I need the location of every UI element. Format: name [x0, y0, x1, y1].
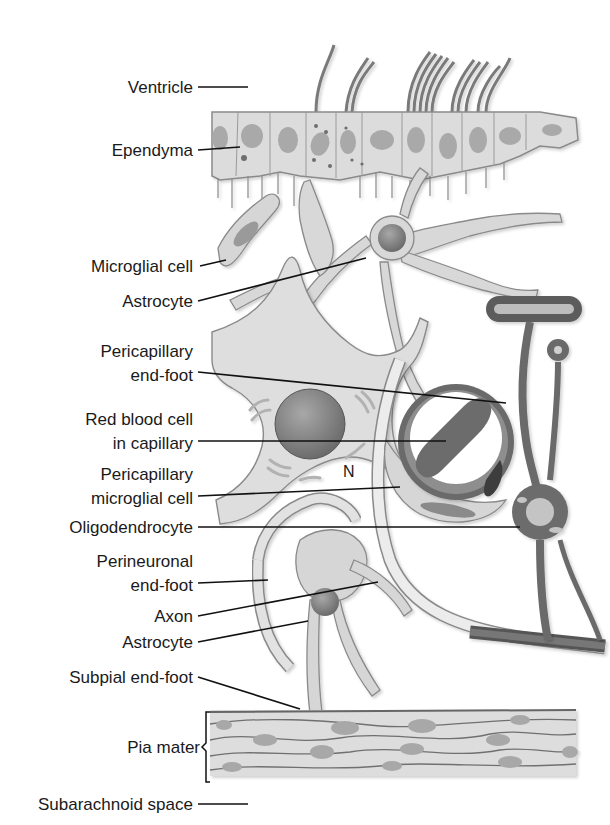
label-astrocyte-upper: Astrocyte [122, 292, 193, 311]
label-red-blood-cell: Red blood cell in capillary [85, 408, 193, 456]
label-perineuronal-end-foot: Perineuronal end-foot [97, 550, 193, 598]
label-text: Axon [154, 607, 193, 626]
nucleus-marker: N [343, 463, 355, 481]
label-text: Pericapillary [100, 340, 193, 364]
label-text: Astrocyte [122, 633, 193, 652]
label-text: Subpial end-foot [69, 668, 193, 687]
label-text: end-foot [97, 574, 193, 598]
label-text: Ependyma [112, 141, 193, 160]
pia-mater-shape [210, 710, 578, 776]
label-text: Ventricle [128, 78, 193, 97]
label-subpial-end-foot: Subpial end-foot [69, 668, 193, 687]
label-oligodendrocyte: Oligodendrocyte [69, 518, 193, 537]
label-text: end-foot [100, 364, 193, 388]
label-ependyma: Ependyma [112, 141, 193, 160]
label-text: Oligodendrocyte [69, 518, 193, 537]
label-text: Red blood cell [85, 408, 193, 432]
neuroglia-diagram: Ventricle Ependyma Microglial cell Astro… [0, 0, 610, 825]
cilia [316, 45, 510, 112]
label-text: Pia mater [127, 738, 200, 757]
label-ventricle: Ventricle [128, 78, 193, 97]
label-text: Astrocyte [122, 292, 193, 311]
label-subarachnoid-space: Subarachnoid space [38, 795, 193, 814]
label-text: Perineuronal [97, 550, 193, 574]
pia-mater-bracket [202, 712, 210, 782]
label-text: in capillary [85, 432, 193, 456]
label-astrocyte-lower: Astrocyte [122, 633, 193, 652]
label-pericapillary-microglial-cell: Pericapillary microglial cell [91, 463, 193, 511]
label-pericapillary-end-foot: Pericapillary end-foot [100, 340, 193, 388]
label-text: Subarachnoid space [38, 795, 193, 814]
label-text: microglial cell [91, 487, 193, 511]
ependyma-layer [212, 112, 578, 208]
label-microglial-cell: Microglial cell [91, 257, 193, 276]
microglial-cell-shape [218, 194, 279, 266]
label-text: Microglial cell [91, 257, 193, 276]
label-axon: Axon [154, 607, 193, 626]
label-pia-mater: Pia mater [127, 738, 200, 757]
label-text: Pericapillary [91, 463, 193, 487]
